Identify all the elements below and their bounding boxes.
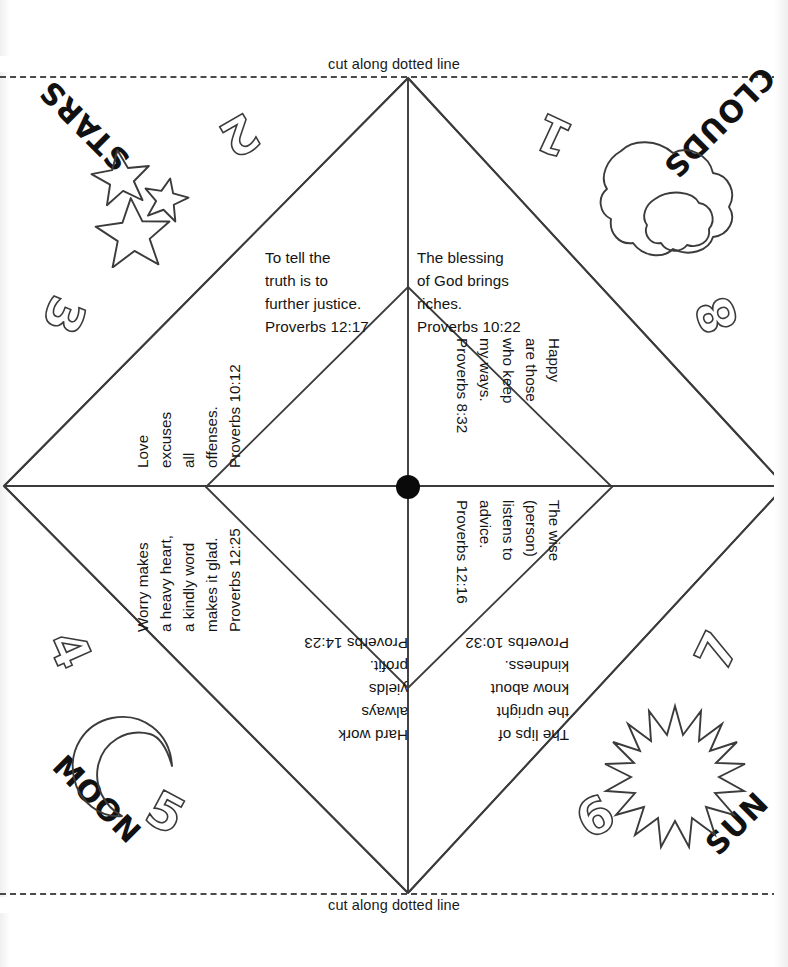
center-dot-icon [396,475,420,499]
printable-page: cut along dotted line cut along dotted l… [0,0,788,967]
verse-top-right: The blessing of God brings riches. Prove… [417,246,562,338]
verse-right-upper: Happy are those who keep my ways. Prover… [451,338,566,488]
verse-left-upper: Love excuses all offenses. Proverbs 10:1… [131,318,246,468]
verse-left-lower: Worry makes a heavy heart, a kindly word… [131,480,246,632]
verse-right-lower: The wise (person) listens to advice. Pro… [451,500,566,652]
verse-bottom-left: Hard work always yields profit. Proverbs… [258,632,408,747]
verse-top-left: To tell the truth is to further justice.… [265,246,405,338]
verse-bottom-right: The lips of the upright know about kindn… [417,632,569,747]
